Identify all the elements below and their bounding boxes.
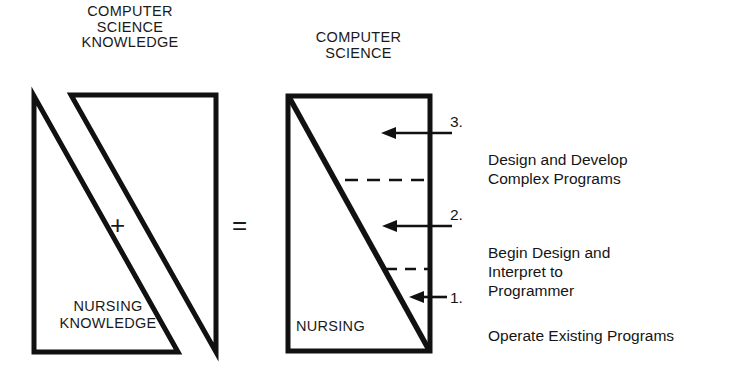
- legend-number-1: 1.: [450, 288, 474, 307]
- nursing-knowledge-label: NURSING KNOWLEDGE: [34, 298, 182, 331]
- equals-operator: =: [232, 212, 247, 238]
- right-diagram-header: COMPUTER SCIENCE: [286, 30, 431, 61]
- legend-text-1: Operate Existing Programs: [488, 326, 740, 345]
- legend-number-2: 2.: [450, 205, 474, 224]
- plus-operator: +: [110, 212, 125, 238]
- legend-number-3: 3.: [450, 112, 474, 131]
- nursing-label: NURSING: [296, 318, 406, 335]
- legend-item-3: 3. Design and Develop Complex Programs: [450, 112, 740, 207]
- left-diagram-header: COMPUTER SCIENCE KNOWLEDGE: [35, 4, 225, 51]
- legend-text-3: Design and Develop Complex Programs: [488, 150, 740, 188]
- legend-item-1: 1. Operate Existing Programs: [450, 288, 740, 364]
